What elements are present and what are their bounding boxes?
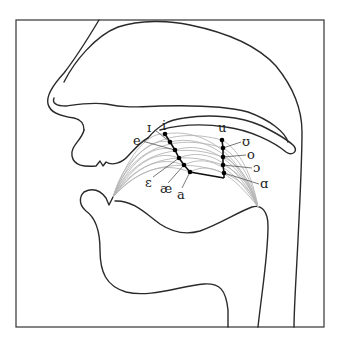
- vowel-point-a: [188, 170, 193, 175]
- vowel-point-æ: [182, 163, 187, 168]
- lower-lip: [80, 190, 228, 327]
- vowel-label-ɑ: ɑ: [260, 176, 268, 191]
- vowel-label-e: e: [133, 133, 141, 148]
- nasal-cavity-outer: [48, 20, 99, 130]
- nasal-floor: [54, 98, 289, 142]
- vowel-label-a: a: [177, 187, 185, 202]
- nasal-cavity-inner: [64, 21, 302, 327]
- vowel-point-u: [220, 138, 225, 143]
- vocal-tract-svg: i ɪ e ɛ æ a u ʊ o ɔ ɑ: [0, 0, 346, 343]
- vowel-label-æ: æ: [160, 181, 172, 196]
- vowel-label-ɔ: ɔ: [253, 160, 260, 175]
- vowel-point-ʊ: [221, 146, 226, 151]
- vocal-tract-diagram: i ɪ e ɛ æ a u ʊ o ɔ ɑ: [0, 0, 346, 343]
- vowel-label-u: u: [218, 120, 226, 135]
- tongue-root: [115, 201, 268, 327]
- vowel-point-o: [221, 155, 226, 160]
- frame-border: [16, 20, 324, 327]
- vowel-point-ɛ: [177, 156, 182, 161]
- vowel-point-ɑ: [222, 171, 227, 176]
- vowel-label-ɪ: ɪ: [147, 120, 151, 135]
- vowel-label-i: i: [162, 118, 166, 133]
- vowel-point-ɪ: [168, 140, 173, 145]
- vowel-point-e: [173, 148, 178, 153]
- vowel-point-ɔ: [221, 163, 226, 168]
- vowel-label-ɛ: ɛ: [145, 175, 152, 190]
